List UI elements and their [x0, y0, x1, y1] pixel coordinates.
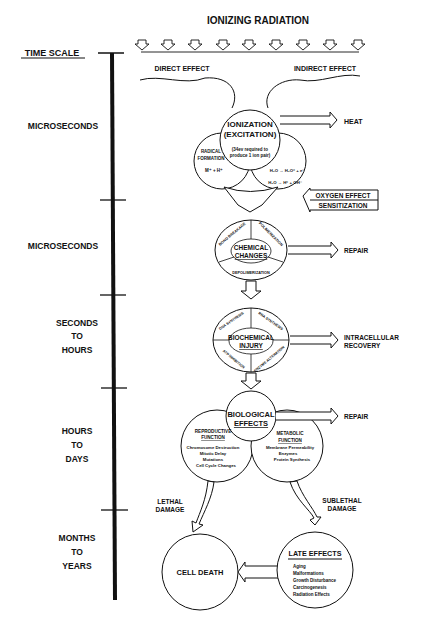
biological-title: BIOLOGICAL: [227, 410, 274, 419]
biochemical-injury-node: BIOCHEMICAL INJURY DNA SYNTHESIS RNA SYN…: [213, 308, 289, 373]
indirect-effect-label: INDIRECT EFFECT: [294, 65, 357, 72]
repair-label-1: REPAIR: [344, 247, 368, 254]
biochemical-title: BIOCHEMICAL: [228, 334, 274, 341]
ionization-note-1: (34ev required to: [232, 147, 269, 152]
heat-arrow: [280, 112, 337, 128]
stage-3-line3: HOURS: [62, 345, 93, 355]
late-item: Growth Disturbance: [293, 578, 337, 583]
metabolic-title-2: FUNCTION: [278, 438, 302, 443]
stage-5-line1: MONTHS: [59, 533, 96, 543]
stage-5-line2: TO: [71, 547, 83, 557]
repro-item: Mitotic Delay: [200, 451, 227, 456]
late-item: Malformations: [293, 571, 324, 576]
repair-arrow-1: [288, 242, 338, 258]
metabolic-title-1: METABOLIC: [277, 431, 305, 436]
repro-item: Mutations: [203, 457, 224, 462]
radical-label-2: FORMATION: [198, 156, 225, 161]
down-arrow-1: [241, 281, 261, 299]
late-item: Carcinogenesis: [293, 585, 327, 590]
recovery-arrow: [290, 332, 338, 348]
late-to-death-arrow: [238, 562, 279, 582]
sensitization-label: SENSITIZATION: [319, 202, 368, 209]
meta-item: Protein Synthesis: [274, 457, 311, 462]
lethal-arrow: [192, 481, 214, 532]
chemical-subtitle: CHANGES: [235, 252, 268, 259]
stage-3-line1: SECONDS: [56, 318, 98, 328]
recovery-label: RECOVERY: [344, 342, 381, 349]
stage-4-line3: DAYS: [66, 454, 89, 464]
water-formula-1: H₂O → H₂O⁺ + e⁻: [270, 168, 305, 173]
lethal-label-1: LETHAL: [157, 498, 183, 505]
time-scale-label: TIME SCALE: [25, 48, 80, 58]
stage-4-line2: TO: [71, 440, 83, 450]
sublethal-arrow: [290, 481, 321, 525]
depolimerization-label: DEPOLIMERIZATION: [232, 271, 270, 275]
radical-label-1: RADICAL: [201, 149, 221, 154]
biological-subtitle: EFFECTS: [234, 419, 268, 428]
time-stages: MICROSECONDS MICROSECONDS SECONDS TO HOU…: [28, 121, 99, 571]
stage-3-line2: TO: [71, 331, 83, 341]
stage-1-label: MICROSECONDS: [28, 121, 99, 131]
direct-effect-label: DIRECT EFFECT: [154, 65, 210, 72]
chemical-changes-node: CHEMICAL CHANGES BOND BREAKAGE POLIMERIZ…: [215, 220, 287, 280]
late-item: Radiation Effects: [293, 592, 330, 597]
stage-4-line1: HOURS: [62, 426, 93, 436]
radiation-arrows: [135, 40, 365, 50]
repro-item: Chromosome Destruction: [187, 445, 240, 450]
reproductive-title-1: REPRODUCTIVE: [195, 429, 232, 434]
meta-item: Membrane Permeability: [266, 445, 315, 450]
stage-2-label: MICROSECONDS: [28, 241, 99, 251]
meta-item: Enzymes: [279, 451, 298, 456]
radical-formula: M⁺ + H⁺: [205, 168, 223, 173]
excitation-title: (EXCITATION): [224, 130, 277, 139]
sublethal-label-1: SUBLETHAL: [322, 497, 361, 504]
time-axis: [98, 53, 128, 600]
repro-item: Cell Cycle Changes: [196, 463, 236, 468]
ionization-title: IONIZATION: [227, 120, 273, 129]
reproductive-title-2: FUNCTION: [201, 435, 225, 440]
cell-death-label: CELL DEATH: [177, 568, 224, 577]
repair-label-2: REPAIR: [344, 413, 368, 420]
oxygen-effect-label: OXYGEN EFFECT: [316, 192, 371, 199]
sublethal-label-2: DAMAGE: [328, 505, 358, 512]
late-effects-title: LATE EFFECTS: [289, 549, 342, 558]
late-item: Aging: [293, 564, 306, 569]
heat-label: HEAT: [344, 118, 363, 125]
intracellular-label: INTRACELLULAR: [344, 334, 399, 341]
chemical-title: CHEMICAL: [234, 244, 268, 251]
lethal-label-2: DAMAGE: [156, 506, 186, 513]
down-arrow-2: [241, 373, 261, 389]
funnel-lines: [140, 75, 360, 108]
stage-5-line3: YEARS: [62, 561, 92, 571]
diagram-title: IONIZING RADIATION: [207, 15, 309, 26]
ionization-note-2: produce 1 ion pair): [230, 153, 271, 158]
ionization-funnel: [224, 187, 278, 212]
biochemical-subtitle: INJURY: [239, 342, 263, 349]
water-formula-2: H₂O → H⁺ + OH⁻: [268, 180, 302, 185]
radiation-effects-diagram: IONIZING RADIATION TIME SCALE MICROSECON…: [0, 0, 424, 627]
